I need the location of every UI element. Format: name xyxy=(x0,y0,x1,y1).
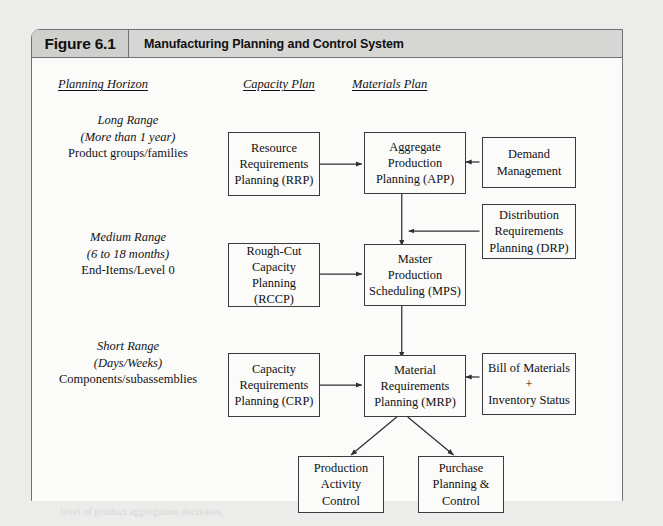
node-label-line: Demand xyxy=(497,146,562,162)
row-timeframe: (6 to 18 months) xyxy=(38,246,218,263)
figure-header: Figure 6.1 Manufacturing Planning and Co… xyxy=(32,30,622,58)
node-label-line: Planning (APP) xyxy=(376,171,454,187)
node-label-line: Rough-Cut xyxy=(232,243,316,259)
node-label-line: Planning (RCCP) xyxy=(232,275,316,307)
node-label-line: Planning (CRP) xyxy=(235,393,314,409)
node-label: ProductionActivityControl xyxy=(314,460,368,508)
row-detail: Product groups/families xyxy=(38,145,218,162)
node-label-line: Production xyxy=(376,155,454,171)
node-app[interactable]: AggregateProductionPlanning (APP) xyxy=(364,132,466,194)
row-detail: End-Items/Level 0 xyxy=(38,262,218,279)
node-label: PurchasePlanning &Control xyxy=(433,460,490,508)
node-label-line: Capacity xyxy=(235,361,314,377)
figure-frame: Figure 6.1 Manufacturing Planning and Co… xyxy=(31,29,623,501)
node-label-line: Resource xyxy=(235,140,314,156)
node-label-line: Planning (MRP) xyxy=(374,394,456,410)
node-label-line: Aggregate xyxy=(376,139,454,155)
node-label: DemandManagement xyxy=(497,146,562,178)
node-mrp[interactable]: MaterialRequirementsPlanning (MRP) xyxy=(364,355,466,417)
node-label-line: Distribution xyxy=(489,207,569,223)
figure-number: Figure 6.1 xyxy=(44,35,115,53)
wire-mrp-ppc xyxy=(408,417,454,455)
figure-number-cell: Figure 6.1 xyxy=(32,30,129,57)
node-drp[interactable]: DistributionRequirementsPlanning (DRP) xyxy=(482,204,576,259)
column-header-capacity-plan: Capacity Plan xyxy=(243,77,315,92)
column-header-planning-horizon: Planning Horizon xyxy=(58,77,148,92)
row-label-long-range: Long Range (More than 1 year) Product gr… xyxy=(38,112,218,162)
node-label-line: Activity xyxy=(314,476,368,492)
row-timeframe: (More than 1 year) xyxy=(38,129,218,146)
node-rccp[interactable]: Rough-CutCapacityPlanning (RCCP) xyxy=(228,243,320,307)
node-label-line: Production xyxy=(314,460,368,476)
node-mps[interactable]: MasterProductionScheduling (MPS) xyxy=(364,244,466,306)
node-label: DistributionRequirementsPlanning (DRP) xyxy=(489,207,569,255)
row-label-medium-range: Medium Range (6 to 18 months) End-Items/… xyxy=(38,229,218,279)
node-label-line: Purchase xyxy=(433,460,490,476)
figure-body: Planning Horizon Capacity Plan Materials… xyxy=(32,58,622,501)
node-label: AggregateProductionPlanning (APP) xyxy=(376,139,454,187)
node-label: ResourceRequirementsPlanning (RRP) xyxy=(235,140,314,188)
node-label: MaterialRequirementsPlanning (MRP) xyxy=(374,362,456,410)
node-label-line: + xyxy=(488,376,570,392)
ghost-line: level of product aggregation decreases. xyxy=(60,506,224,517)
node-label-line: Production xyxy=(369,267,461,283)
node-label-line: Requirements xyxy=(235,156,314,172)
node-label: MasterProductionScheduling (MPS) xyxy=(369,251,461,299)
figure-title: Manufacturing Planning and Control Syste… xyxy=(129,30,404,57)
node-label-line: Requirements xyxy=(374,378,456,394)
node-ppc[interactable]: PurchasePlanning &Control xyxy=(418,456,504,513)
node-label-line: Control xyxy=(314,493,368,509)
wire-mrp-pac xyxy=(351,417,397,455)
node-bom[interactable]: Bill of Materials+Inventory Status xyxy=(482,353,576,415)
node-crp[interactable]: CapacityRequirementsPlanning (CRP) xyxy=(228,353,320,417)
node-label-line: Material xyxy=(374,362,456,378)
node-label-line: Bill of Materials xyxy=(488,360,570,376)
node-pac[interactable]: ProductionActivityControl xyxy=(298,456,384,513)
row-detail: Components/subassemblies xyxy=(28,371,228,388)
node-label-line: Inventory Status xyxy=(488,392,570,408)
node-label-line: Scheduling (MPS) xyxy=(369,283,461,299)
row-range: Long Range xyxy=(38,112,218,129)
row-timeframe: (Days/Weeks) xyxy=(28,355,228,372)
node-label-line: Control xyxy=(433,493,490,509)
node-label-line: Management xyxy=(497,163,562,179)
node-label: Rough-CutCapacityPlanning (RCCP) xyxy=(232,243,316,308)
column-header-materials-plan: Materials Plan xyxy=(352,77,427,92)
row-range: Short Range xyxy=(28,338,228,355)
node-label-line: Planning (DRP) xyxy=(489,240,569,256)
node-label-line: Capacity xyxy=(232,259,316,275)
node-label-line: Requirements xyxy=(489,223,569,239)
row-range: Medium Range xyxy=(38,229,218,246)
node-label-line: Master xyxy=(369,251,461,267)
node-label-line: Planning & xyxy=(433,476,490,492)
node-label-line: Planning (RRP) xyxy=(235,172,314,188)
node-demand-management[interactable]: DemandManagement xyxy=(482,137,576,188)
node-label: Bill of Materials+Inventory Status xyxy=(488,360,570,408)
node-rrp[interactable]: ResourceRequirementsPlanning (RRP) xyxy=(228,132,320,196)
node-label-line: Requirements xyxy=(235,377,314,393)
row-label-short-range: Short Range (Days/Weeks) Components/suba… xyxy=(28,338,228,388)
node-label: CapacityRequirementsPlanning (CRP) xyxy=(235,361,314,409)
